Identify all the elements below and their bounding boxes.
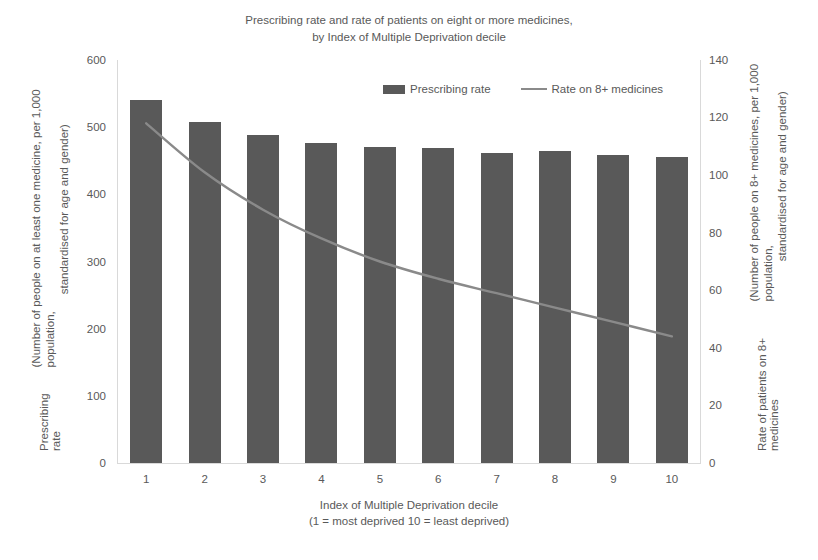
x-axis-title: Index of Multiple Deprivation decile (1 … xyxy=(0,497,818,529)
x-axis-title-main: Index of Multiple Deprivation decile xyxy=(0,497,818,513)
x-tick-6: 6 xyxy=(409,473,467,485)
y-tick-left-100: 100 xyxy=(60,390,106,402)
line-path xyxy=(146,123,672,336)
x-axis-line xyxy=(117,463,701,464)
y-tick-left-300: 300 xyxy=(60,256,106,268)
y-axis-left-title-main: Prescribing rate xyxy=(38,375,62,451)
y-tick-left-200: 200 xyxy=(60,323,106,335)
y-axis-right-title-main: Rate of patients on 8+ medicines xyxy=(756,309,780,451)
x-tick-3: 3 xyxy=(234,473,292,485)
x-tick-7: 7 xyxy=(467,473,525,485)
y-tick-right-60: 60 xyxy=(709,284,755,296)
plot-area xyxy=(117,60,701,463)
x-tick-5: 5 xyxy=(351,473,409,485)
x-axis-ticks: 12345678910 xyxy=(117,473,701,485)
y-tick-right-0: 0 xyxy=(709,457,755,469)
x-tick-9: 9 xyxy=(584,473,642,485)
line-series-rate-on-8-plus-medicines xyxy=(117,60,701,463)
y-tick-right-120: 120 xyxy=(709,111,755,123)
y-tick-left-400: 400 xyxy=(60,188,106,200)
chart-title-line-2: by Index of Multiple Deprivation decile xyxy=(0,29,818,46)
x-tick-10: 10 xyxy=(643,473,701,485)
y-tick-right-100: 100 xyxy=(709,169,755,181)
y-tick-left-600: 600 xyxy=(60,54,106,66)
chart-title: Prescribing rate and rate of patients on… xyxy=(0,12,818,46)
y-axis-right-title-note-line-2: standardised for age and gender) xyxy=(775,91,789,261)
x-tick-4: 4 xyxy=(292,473,350,485)
y-axis-right-ticks: 140 120 100 80 60 40 20 0 xyxy=(709,0,755,560)
y-tick-left-500: 500 xyxy=(60,121,106,133)
x-axis-title-note: (1 = most deprived 10 = least deprived) xyxy=(0,513,818,529)
y-tick-right-40: 40 xyxy=(709,342,755,354)
x-tick-2: 2 xyxy=(175,473,233,485)
x-tick-8: 8 xyxy=(526,473,584,485)
y-tick-left-0: 0 xyxy=(60,457,106,469)
y-tick-right-20: 20 xyxy=(709,399,755,411)
chart-title-line-1: Prescribing rate and rate of patients on… xyxy=(0,12,818,29)
y-axis-left-ticks: 600 500 400 300 200 100 0 xyxy=(60,0,106,560)
y-axis-left-title-note-line-1: (Number of people on at least one medici… xyxy=(29,51,57,367)
chart-container: Prescribing rate and rate of patients on… xyxy=(0,0,818,560)
y-tick-right-80: 80 xyxy=(709,227,755,239)
y-tick-right-140: 140 xyxy=(709,54,755,66)
x-tick-1: 1 xyxy=(117,473,175,485)
